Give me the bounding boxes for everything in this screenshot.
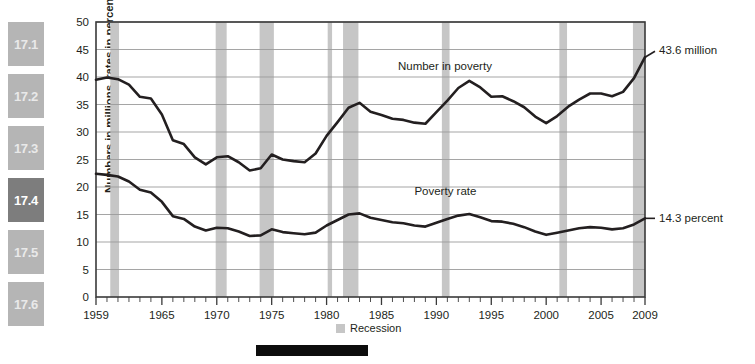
chapter-nav-sidebar: 17.1 17.2 17.3 17.4 17.5 17.6 — [8, 22, 44, 338]
bottom-progress-bar — [256, 345, 368, 356]
sidebar-item-label: 17.6 — [14, 297, 38, 312]
sidebar-item-17-3[interactable]: 17.3 — [8, 126, 44, 170]
x-tick-label: 1985 — [369, 309, 395, 321]
x-tick-label: 1980 — [314, 309, 340, 321]
y-tick-label: 50 — [76, 16, 89, 28]
y-tick-label: 40 — [76, 71, 89, 83]
end-label-leader-0 — [645, 51, 655, 57]
line-chart-svg: 05101520253035404550 1959196519701975198… — [52, 0, 755, 330]
end-label-1: 14.3 percent — [659, 212, 724, 224]
recession-swatch-icon — [336, 324, 345, 333]
sidebar-item-17-2[interactable]: 17.2 — [8, 74, 44, 118]
end-label-0: 43.6 million — [659, 44, 717, 56]
x-tick-label: 2005 — [588, 309, 614, 321]
y-tick-label: 25 — [76, 154, 89, 166]
sidebar-item-17-6[interactable]: 17.6 — [8, 282, 44, 326]
sidebar-item-label: 17.2 — [14, 89, 38, 104]
x-tick-label: 2009 — [632, 309, 658, 321]
x-tickmarks-group — [96, 297, 645, 305]
x-tick-label: 1965 — [149, 309, 175, 321]
y-tick-label: 5 — [83, 264, 89, 276]
y-tick-label: 30 — [76, 126, 89, 138]
series-annotation-0: Number in poverty — [398, 60, 492, 72]
series-annotation-1: Poverty rate — [414, 185, 476, 197]
x-tick-label: 1975 — [259, 309, 285, 321]
sidebar-item-label: 17.3 — [14, 141, 38, 156]
x-tick-labels-group: 1959196519701975198019851990199520002005… — [83, 309, 658, 321]
sidebar-item-label: 17.5 — [14, 245, 38, 260]
x-tick-label: 1970 — [204, 309, 230, 321]
sidebar-item-17-5[interactable]: 17.5 — [8, 230, 44, 274]
y-tick-label: 0 — [83, 291, 89, 303]
poverty-chart-figure: Numbers in millions, rates in percent 05… — [52, 0, 755, 364]
x-tick-label: 1995 — [478, 309, 504, 321]
legend-label-recession: Recession — [350, 322, 401, 334]
sidebar-item-label: 17.4 — [14, 193, 38, 208]
sidebar-item-17-1[interactable]: 17.1 — [8, 22, 44, 66]
y-tick-label: 35 — [76, 99, 89, 111]
sidebar-item-label: 17.1 — [14, 37, 38, 52]
y-tick-labels-group: 05101520253035404550 — [76, 16, 89, 303]
x-tick-label: 2000 — [533, 309, 559, 321]
y-tick-label: 15 — [76, 209, 89, 221]
chart-legend: Recession — [336, 322, 401, 334]
y-tick-label: 20 — [76, 181, 89, 193]
chart-plot-area: 05101520253035404550 1959196519701975198… — [52, 0, 755, 330]
sidebar-item-17-4[interactable]: 17.4 — [8, 178, 44, 222]
x-tick-label: 1990 — [424, 309, 450, 321]
y-tick-label: 45 — [76, 44, 89, 56]
y-tick-label: 10 — [76, 236, 89, 248]
x-tick-label: 1959 — [83, 309, 109, 321]
